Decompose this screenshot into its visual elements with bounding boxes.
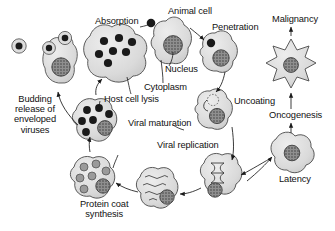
label-nucleus: Nucleus [165,64,198,74]
arrow-transcription-to-protein-coat [116,183,138,192]
label-absorption: Absorption [95,16,138,26]
arrow-protein-coat-to-maturation [89,137,90,152]
label-uncoating: Uncoating [234,96,275,106]
arrow-maturation-to-lysis [96,79,102,95]
label-viral-replication: Viral replication [157,140,219,150]
label-protein-coat-synthesis: Protein coat synthesis [80,199,128,219]
arrow-latency-to-replication [241,158,271,175]
leader-cytoplasm [161,60,163,83]
stage-budding-cell [43,31,78,83]
label-malignancy: Malignancy [272,14,318,24]
leader-protein-coat [113,155,118,168]
label-cytoplasm: Cytoplasm [144,82,187,92]
stage-maturation-cell [72,99,116,142]
arrow-animal-to-penetration [190,28,204,40]
arrow-replication-to-latency [247,157,272,181]
stage-transcription-cell [136,167,178,208]
label-budding-release: Budding release of enveloped viruses [14,94,56,135]
arrow-replication-to-transcription [180,188,201,194]
viral-replication-diagram: Absorption Animal cell Penetration Malig… [0,0,335,231]
label-viral-maturation: Viral maturation [128,118,191,128]
stage-protein-coat-cell [70,156,114,198]
label-penetration: Penetration [212,22,258,32]
label-host-cell-lysis: Host cell lysis [104,94,159,104]
stage-free-enveloped-virion [12,39,26,53]
stage-animal-cell [147,17,192,64]
stage-lysis-cell [84,24,147,82]
label-animal-cell: Animal cell [168,6,212,16]
stage-malignant-cell [266,39,316,88]
label-latency: Latency [279,174,311,184]
stage-penetration-cell [200,31,237,73]
stage-replication-cell [200,153,242,197]
stage-latency-cell [271,132,314,173]
label-oncogenesis: Oncogenesis [269,110,322,120]
stage-uncoating-cell [195,89,232,130]
